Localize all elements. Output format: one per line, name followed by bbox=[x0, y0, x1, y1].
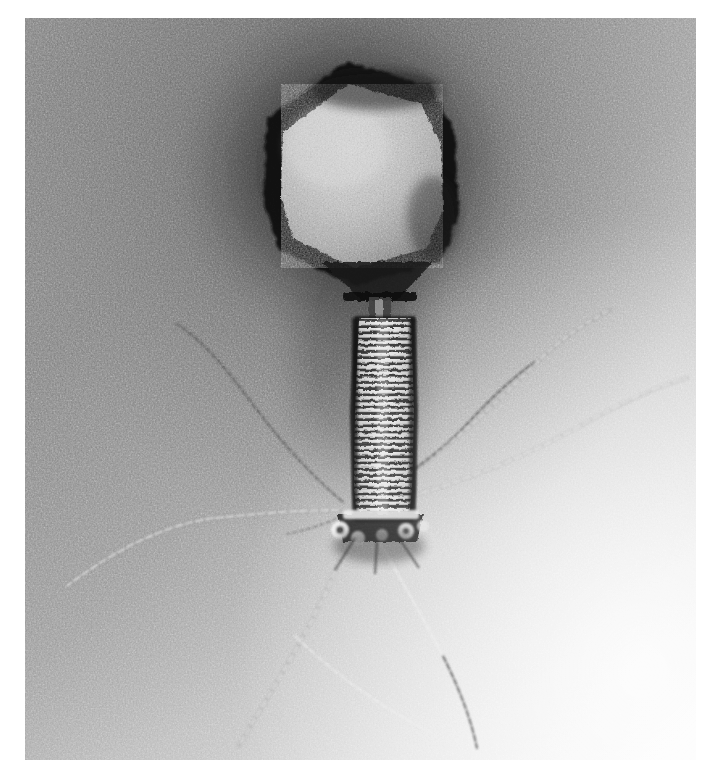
electron-micrograph-plate bbox=[25, 18, 696, 760]
micrograph-page bbox=[0, 0, 704, 777]
corner-bloom bbox=[25, 18, 696, 760]
micrograph-canvas bbox=[25, 18, 696, 760]
